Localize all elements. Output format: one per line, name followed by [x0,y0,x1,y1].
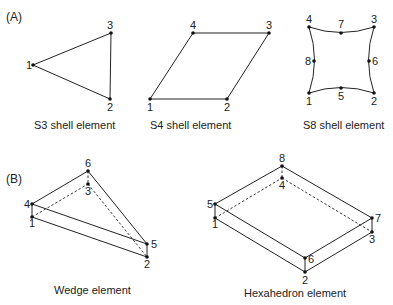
wedge-node-label-2: 2 [144,258,150,270]
s3-node-3 [109,31,113,35]
s3-shell-element: 1 3 2 S3 shell element [26,19,115,131]
hex-node-label-6: 6 [308,253,314,265]
s3-node-label-2: 2 [107,101,113,113]
hex-node-label-3: 3 [369,233,375,245]
s8-node-label-7: 7 [338,18,344,30]
s4-shell-element: 1 2 3 4 S4 shell element [147,19,272,131]
hex-node-6 [303,256,307,260]
panel-label-b: (B) [6,172,22,186]
s3-node-label-1: 1 [26,59,32,71]
s8-edges [309,27,374,93]
hex-node-label-7: 7 [375,212,381,224]
hex-node-label-5: 5 [207,198,213,210]
hex-node-7 [370,216,374,220]
s8-node-8 [312,59,316,63]
s8-node-3 [372,25,376,29]
hex-node-label-1: 1 [212,218,218,230]
s4-node-label-4: 4 [190,19,196,31]
panel-label-a: (A) [6,10,22,24]
hexahedron-element: 1 2 3 4 5 6 7 8 Hexahedron element [207,152,381,299]
wedge-node-label-4: 4 [24,198,30,210]
s3-caption: S3 shell element [34,119,115,131]
wedge-hidden-edge-1-3 [32,184,88,217]
s4-caption: S4 shell element [150,119,231,131]
wedge-node-label-1: 1 [29,217,35,229]
wedge-node-4 [30,202,34,206]
s4-node-label-1: 1 [147,101,153,113]
s8-node-6 [367,59,371,63]
wedge-node-5 [145,242,149,246]
s4-node-label-2: 2 [224,101,230,113]
s8-node-label-3: 3 [371,13,377,25]
hex-node-label-4: 4 [279,179,285,191]
s8-node-label-5: 5 [338,90,344,102]
s8-node-label-6: 6 [372,55,378,67]
s8-node-label-2: 2 [371,95,377,107]
wedge-node-label-5: 5 [151,238,157,250]
hex-hidden-edge-4-3 [282,178,372,232]
s4-node-4 [191,31,195,35]
hex-caption: Hexahedron element [244,287,346,299]
s4-node-label-3: 3 [266,19,272,31]
wedge-caption: Wedge element [54,284,131,296]
wedge-element: 1 2 3 4 5 6 Wedge element [24,157,157,296]
s8-caption: S8 shell element [303,119,384,131]
hex-node-5 [213,202,217,206]
wedge-hidden-edge-3-2 [88,184,147,257]
s3-node-label-3: 3 [107,19,113,31]
wedge-top-face [32,171,147,244]
hex-node-8 [280,164,284,168]
hex-node-label-2: 2 [302,274,308,286]
hex-node-label-8: 8 [279,152,285,164]
s4-edges [150,33,269,99]
s8-shell-element: 1 2 3 4 5 6 7 8 S8 shell element [303,13,384,131]
finite-element-diagram: (A) (B) 1 3 2 S3 shell element 1 2 3 4 S… [0,0,393,305]
s8-node-4 [307,25,311,29]
hex-top-face [215,166,372,258]
wedge-node-label-6: 6 [85,157,91,169]
s4-node-3 [267,31,271,35]
s8-node-label-1: 1 [306,95,312,107]
s3-edges [33,33,111,99]
s8-node-label-4: 4 [306,13,312,25]
s8-node-7 [339,31,343,35]
s8-node-label-8: 8 [305,55,311,67]
wedge-node-label-3: 3 [85,185,91,197]
hex-edge-1-2 [215,218,305,272]
wedge-node-6 [86,169,90,173]
